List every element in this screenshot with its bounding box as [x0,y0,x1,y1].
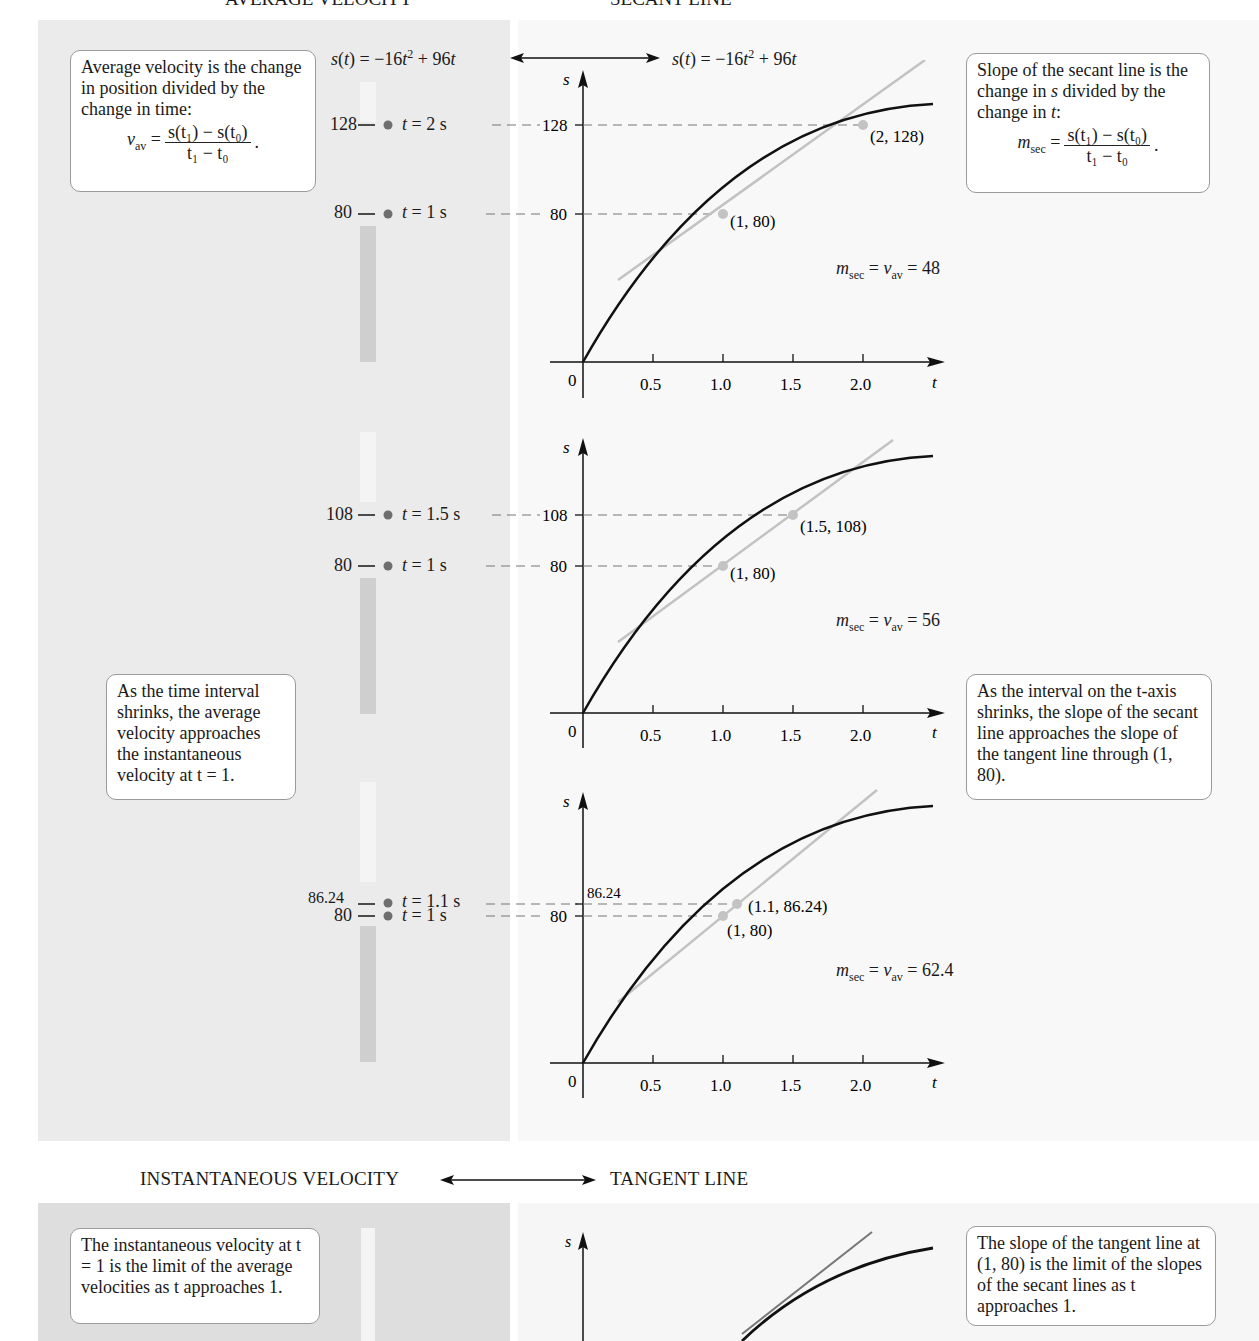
svg-text:(1.5, 108): (1.5, 108) [800,517,867,536]
secant-chart-3: s t 0 0.5 1.0 1.5 2.0 86.24 80 (1, 80) (… [520,780,960,1110]
tangent-chart: s [520,1220,960,1341]
svg-text:s: s [563,438,570,457]
svg-text:1.0: 1.0 [710,726,731,745]
svg-text:1.0: 1.0 [710,1076,731,1095]
svg-text:80: 80 [550,205,567,224]
svg-text:(1.1, 86.24): (1.1, 86.24) [748,897,827,916]
svg-text:80: 80 [550,557,567,576]
secant-chart-1: s t 0 0.5 1.0 1.5 2.0 128 80 (1, 80) (2,… [520,60,960,400]
svg-text:(2, 128): (2, 128) [870,127,924,146]
svg-text:0.5: 0.5 [640,1076,661,1095]
svg-text:0: 0 [568,371,577,390]
svg-text:(1, 80): (1, 80) [730,212,775,231]
svg-text:2.0: 2.0 [850,726,871,745]
msec-label-2: msec = vav = 56 [836,610,940,635]
svg-text:0.5: 0.5 [640,375,661,394]
svg-text:2.0: 2.0 [850,1076,871,1095]
svg-text:1.5: 1.5 [780,1076,801,1095]
svg-text:t: t [932,723,938,742]
msec-label-3: msec = vav = 62.4 [836,960,953,985]
svg-text:128: 128 [542,116,568,135]
svg-text:s: s [565,1233,571,1250]
svg-text:108: 108 [542,506,568,525]
svg-text:2.0: 2.0 [850,375,871,394]
svg-text:0: 0 [568,722,577,741]
svg-text:(1, 80): (1, 80) [730,564,775,583]
svg-text:(1, 80): (1, 80) [727,921,772,940]
svg-text:1.0: 1.0 [710,375,731,394]
svg-text:t: t [932,373,938,392]
svg-text:0.5: 0.5 [640,726,661,745]
svg-text:s: s [563,792,570,811]
svg-text:80: 80 [550,907,567,926]
svg-text:t: t [932,1073,938,1092]
svg-text:1.5: 1.5 [780,726,801,745]
svg-text:0: 0 [568,1072,577,1091]
svg-text:s: s [563,70,570,89]
secant-chart-2: s t 0 0.5 1.0 1.5 2.0 108 80 (1, 80) (1.… [520,420,960,760]
svg-text:86.24: 86.24 [587,885,621,901]
msec-label-1: msec = vav = 48 [836,258,940,283]
svg-text:1.5: 1.5 [780,375,801,394]
